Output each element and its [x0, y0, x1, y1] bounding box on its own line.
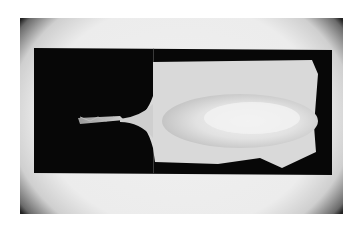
- spray-plume: [20, 18, 343, 214]
- photograph: [20, 18, 343, 214]
- liquid-jet: [78, 116, 124, 124]
